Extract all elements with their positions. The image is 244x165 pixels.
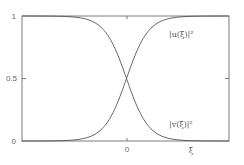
chart-canvas: 1 0.5 0 0 ξ |u(ξ)|² |v(ξ)|² [0, 0, 244, 165]
y-tick-label-0: 0 [12, 137, 17, 146]
series-label-u: |u(ξ)|² [169, 30, 193, 39]
series-label-v: |v(ξ)|² [169, 120, 193, 129]
curve-u-squared [22, 16, 229, 141]
y-tick-label-1: 1 [12, 12, 17, 21]
plot-frame [22, 16, 229, 141]
curve-v-squared [22, 16, 229, 141]
x-axis-label: ξ [189, 146, 194, 155]
y-tick-label-05: 0.5 [6, 74, 18, 83]
x-tick-label-0: 0 [125, 145, 130, 154]
